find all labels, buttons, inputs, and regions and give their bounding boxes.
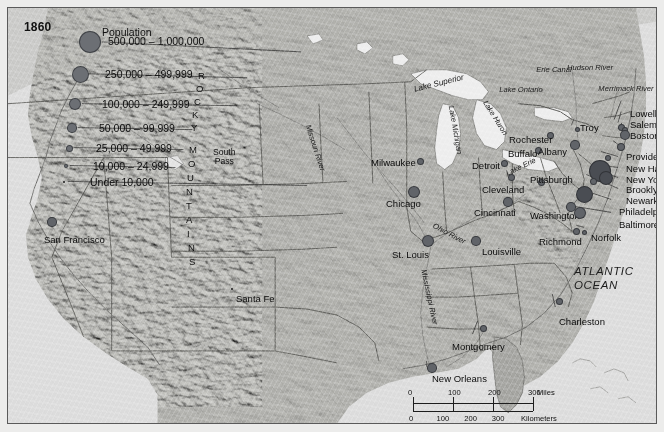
city-label-detroit: Detroit <box>472 160 500 171</box>
scalebar-km-label-2: 200 <box>464 414 477 423</box>
city-label-st-louis: St. Louis <box>392 249 429 260</box>
city-label-salem: Salem <box>630 119 657 130</box>
city-label-cincinnati: Cincinnati <box>474 207 516 218</box>
rockies-letter-4: K <box>192 109 198 120</box>
rockies-letter-14: S <box>189 256 195 267</box>
legend-label-3: 100,000 – 249,999 <box>102 98 190 110</box>
ocean-label-line1: ATLANTIC <box>574 265 634 277</box>
legend-dot-1 <box>79 31 101 53</box>
city-label-montgomery: Montgomery <box>452 341 505 352</box>
geo-label-hudson-river: Hudson River <box>567 64 613 72</box>
city-label-newark: Newark <box>626 195 657 206</box>
legend-label-6: 10,000 – 24,999 <box>93 160 169 172</box>
city-dot-new-haven[interactable] <box>605 155 611 161</box>
legend-dot-2 <box>72 66 89 83</box>
ocean-label-line2: OCEAN <box>574 279 618 291</box>
city-dot-providence[interactable] <box>617 143 625 151</box>
city-dot-san-francisco[interactable] <box>47 217 57 227</box>
city-label-charleston: Charleston <box>559 316 605 327</box>
city-label-troy: Troy <box>580 122 599 133</box>
rockies-letter-11: A <box>186 214 192 225</box>
south-pass-label: South Pass <box>213 148 235 166</box>
city-dot-charleston[interactable] <box>556 298 563 305</box>
city-label-providence: Providence <box>626 151 657 162</box>
scalebar-km-label-1: 100 <box>437 414 450 423</box>
legend-dot-5 <box>66 145 73 152</box>
city-label-new-haven: New Haven <box>626 163 657 174</box>
legend-label-7: Under 10,000 <box>90 176 154 188</box>
city-label-boston: Boston <box>630 130 657 141</box>
rockies-letter-5: Y <box>191 122 197 133</box>
city-dot-albany[interactable] <box>570 140 580 150</box>
rockies-letter-3: C <box>194 96 201 107</box>
scalebar-miles-line <box>413 403 533 404</box>
rockies-letter-1: R <box>198 70 205 81</box>
rockies-letter-12: I <box>187 228 190 239</box>
scalebar-miles-tick-1 <box>453 397 454 411</box>
geo-label-merrimack-river: Merrimack River <box>598 85 653 93</box>
map-year-title: 1860 <box>24 20 52 34</box>
city-dot-philadelphia[interactable] <box>576 186 593 203</box>
city-label-santa-fe: Santa Fe <box>236 293 275 304</box>
scalebar-km-line <box>413 411 533 412</box>
rockies-letter-6: M <box>189 144 197 155</box>
city-dot-baltimore[interactable] <box>574 207 586 219</box>
city-dot-louisville[interactable] <box>471 236 481 246</box>
city-label-richmond: Richmond <box>539 236 582 247</box>
legend-label-5: 25,000 – 49,999 <box>96 142 172 154</box>
legend-label-4: 50,000 – 99,999 <box>99 122 175 134</box>
city-label-chicago: Chicago <box>386 198 421 209</box>
city-label-washington: Washington <box>530 210 580 221</box>
scalebar-miles-tick-3 <box>533 397 534 411</box>
rockies-letter-10: T <box>186 200 192 211</box>
city-dot-boston[interactable] <box>620 130 630 140</box>
city-dot-detroit[interactable] <box>501 160 508 167</box>
legend-dot-4 <box>67 123 77 133</box>
scalebar-miles-label-2: 200 <box>488 388 501 397</box>
city-dot-brooklyn[interactable] <box>599 171 613 185</box>
city-dot-cleveland[interactable] <box>508 174 515 181</box>
map-frame: 1860 Population 500,000 – 1,000,000250,0… <box>7 7 657 424</box>
city-dot-cincinnati[interactable] <box>503 197 513 207</box>
city-label-philadelphia: Philadelphia <box>619 206 657 217</box>
scalebar-miles-label-0: 0 <box>408 388 412 397</box>
rockies-letter-2: O <box>196 83 203 94</box>
city-label-baltimore: Baltimore <box>619 219 657 230</box>
atlantic-ocean-label: ATLANTIC OCEAN <box>574 264 634 293</box>
city-label-brooklyn: Brooklyn <box>626 184 657 195</box>
city-dot-newark[interactable] <box>590 178 597 185</box>
city-label-rochester: Rochester <box>509 134 552 145</box>
city-label-milwaukee: Milwaukee <box>371 157 416 168</box>
scalebar-miles-unit: Miles <box>537 388 555 397</box>
rockies-letter-13: N <box>188 242 195 253</box>
city-dot-richmond[interactable] <box>573 228 580 235</box>
scalebar-km-unit: Kilometers <box>521 414 557 423</box>
scalebar-miles-tick-2 <box>493 397 494 411</box>
scalebar-km-label-0: 0 <box>409 414 413 423</box>
city-label-cleveland: Cleveland <box>482 184 524 195</box>
city-label-albany: Albany <box>538 146 567 157</box>
scalebar-km-label-3: 300 <box>492 414 505 423</box>
rockies-letter-7: O <box>188 158 195 169</box>
city-label-buffalo: Buffalo <box>508 148 537 159</box>
city-label-new-orleans: New Orleans <box>432 373 487 384</box>
city-label-lowell: Lowell <box>630 108 657 119</box>
city-dot-montgomery[interactable] <box>480 325 487 332</box>
city-label-norfolk: Norfolk <box>591 232 621 243</box>
legend-label-2: 250,000 – 499,999 <box>105 68 193 80</box>
rockies-letter-8: U <box>187 172 194 183</box>
scalebar-miles-label-1: 100 <box>448 388 461 397</box>
south-pass-line2: Pass <box>215 156 234 166</box>
rockies-letter-9: N <box>186 186 193 197</box>
city-label-louisville: Louisville <box>482 246 521 257</box>
city-dot-norfolk[interactable] <box>582 230 587 235</box>
city-dot-troy[interactable] <box>575 127 580 132</box>
legend-label-1: 500,000 – 1,000,000 <box>108 35 204 47</box>
geo-label-lake-ontario: Lake Ontario <box>499 86 542 94</box>
map-figure: 1860 Population 500,000 – 1,000,000250,0… <box>0 0 664 432</box>
city-dot-new-orleans[interactable] <box>427 363 437 373</box>
city-label-pittsburgh: Pittsburgh <box>530 174 573 185</box>
scalebar-miles-tick-0 <box>413 397 414 411</box>
city-label-san-francisco: San Francisco <box>44 234 105 245</box>
city-dot-milwaukee[interactable] <box>417 158 424 165</box>
